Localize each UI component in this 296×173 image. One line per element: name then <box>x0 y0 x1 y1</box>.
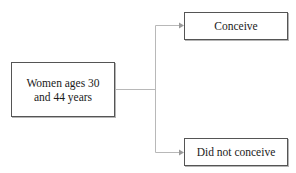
outcome-label: Conceive <box>214 19 257 33</box>
outcome-node-conceive: Conceive <box>184 12 288 40</box>
source-node: Women ages 30 and 44 years <box>11 62 115 117</box>
source-node-label: Women ages 30 and 44 years <box>18 76 108 104</box>
outcome-label: Did not conceive <box>197 145 276 159</box>
outcome-node-did-not-conceive: Did not conceive <box>184 138 288 166</box>
